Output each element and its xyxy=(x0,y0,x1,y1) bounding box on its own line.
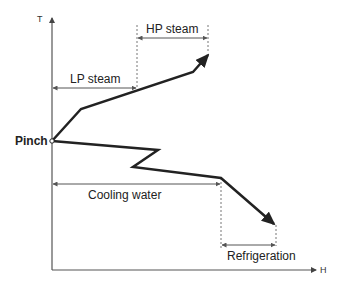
x-axis-label: H xyxy=(320,265,327,275)
refrigeration-label: Refrigeration xyxy=(227,249,296,263)
grand-composite-curve-diagram: T H HP steam LP steam Cooling water xyxy=(0,0,346,283)
guide-lines xyxy=(137,25,276,250)
hp-steam-label: HP steam xyxy=(146,22,198,36)
pinch-point xyxy=(50,139,54,143)
curve-below-pinch xyxy=(52,141,274,224)
cooling-water-label: Cooling water xyxy=(88,188,161,202)
pinch-label: Pinch xyxy=(15,134,48,148)
y-axis-label: T xyxy=(37,14,43,24)
curve-above-pinch xyxy=(52,55,208,141)
lp-steam-label: LP steam xyxy=(70,72,120,86)
